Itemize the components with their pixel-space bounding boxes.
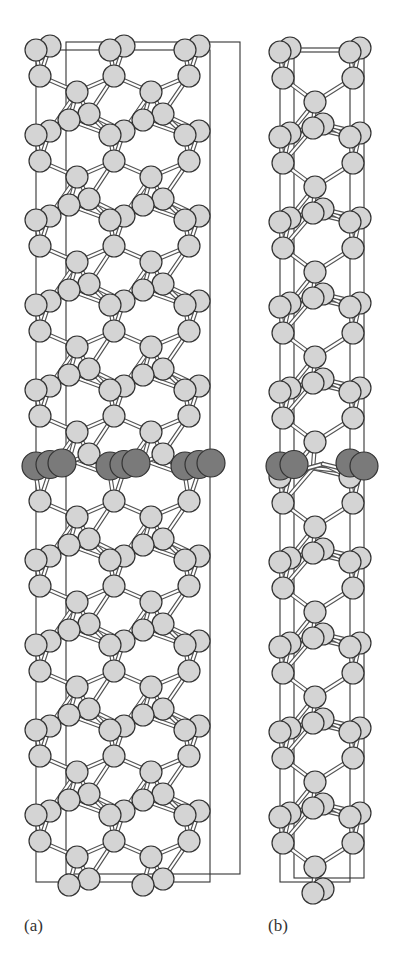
crystal-structure-figure — [0, 0, 400, 959]
atom — [29, 830, 51, 852]
atom — [99, 209, 121, 231]
atom — [302, 797, 324, 819]
atom — [342, 67, 364, 89]
atom — [342, 577, 364, 599]
atom — [342, 747, 364, 769]
atom — [302, 287, 324, 309]
atom — [178, 150, 200, 172]
atom — [29, 320, 51, 342]
atom — [140, 591, 162, 613]
atom — [78, 613, 100, 635]
atom — [25, 549, 47, 571]
atom — [29, 405, 51, 427]
atom — [29, 235, 51, 257]
panel-label-b: (b) — [268, 916, 288, 936]
atom — [29, 575, 51, 597]
atom — [58, 109, 80, 131]
atom — [178, 575, 200, 597]
atom — [269, 126, 291, 148]
atom — [25, 124, 47, 146]
atom — [66, 251, 88, 273]
atom — [174, 39, 196, 61]
atom — [140, 761, 162, 783]
atom — [342, 492, 364, 514]
atom — [174, 634, 196, 656]
atom — [304, 516, 326, 538]
atom — [78, 783, 100, 805]
atom — [78, 358, 100, 380]
atom — [78, 273, 100, 295]
atom — [342, 152, 364, 174]
atom — [152, 358, 174, 380]
atom — [339, 126, 361, 148]
atom — [103, 745, 125, 767]
atom — [103, 235, 125, 257]
atom — [140, 506, 162, 528]
atom — [103, 575, 125, 597]
atom — [66, 336, 88, 358]
atom — [132, 619, 154, 641]
atom — [174, 804, 196, 826]
atom — [132, 194, 154, 216]
atom — [174, 209, 196, 231]
atom — [304, 856, 326, 878]
atom — [272, 662, 294, 684]
atom — [58, 194, 80, 216]
atom — [304, 431, 326, 453]
atom — [178, 660, 200, 682]
atom — [272, 237, 294, 259]
atom — [302, 202, 324, 224]
dark-atom — [280, 451, 308, 479]
atom — [304, 686, 326, 708]
atom — [339, 211, 361, 233]
atom — [140, 846, 162, 868]
atom — [152, 273, 174, 295]
atom — [269, 721, 291, 743]
atom — [272, 747, 294, 769]
atom — [269, 211, 291, 233]
atom — [99, 39, 121, 61]
atom — [25, 294, 47, 316]
atom — [58, 704, 80, 726]
atom — [140, 336, 162, 358]
atom — [66, 676, 88, 698]
atom — [99, 124, 121, 146]
atom — [132, 534, 154, 556]
atom — [58, 789, 80, 811]
atom — [58, 534, 80, 556]
atom — [25, 379, 47, 401]
atom — [339, 721, 361, 743]
atom — [78, 188, 100, 210]
atom — [140, 421, 162, 443]
atom — [342, 237, 364, 259]
atom — [78, 698, 100, 720]
atom — [103, 65, 125, 87]
atom — [152, 613, 174, 635]
atom — [99, 719, 121, 741]
atom — [178, 405, 200, 427]
atom — [342, 832, 364, 854]
atom — [25, 209, 47, 231]
atom — [66, 421, 88, 443]
atom — [132, 789, 154, 811]
atom — [302, 372, 324, 394]
atom — [342, 322, 364, 344]
atom — [140, 251, 162, 273]
atom — [269, 41, 291, 63]
atom — [58, 619, 80, 641]
atom — [304, 261, 326, 283]
atom — [66, 166, 88, 188]
atom — [272, 577, 294, 599]
atom — [269, 296, 291, 318]
atom — [339, 381, 361, 403]
atom — [269, 551, 291, 573]
atom — [103, 660, 125, 682]
atom — [152, 188, 174, 210]
atom — [152, 783, 174, 805]
atom — [58, 874, 80, 896]
atom — [132, 279, 154, 301]
atom — [103, 320, 125, 342]
atom — [103, 830, 125, 852]
atom — [152, 528, 174, 550]
atom — [339, 41, 361, 63]
